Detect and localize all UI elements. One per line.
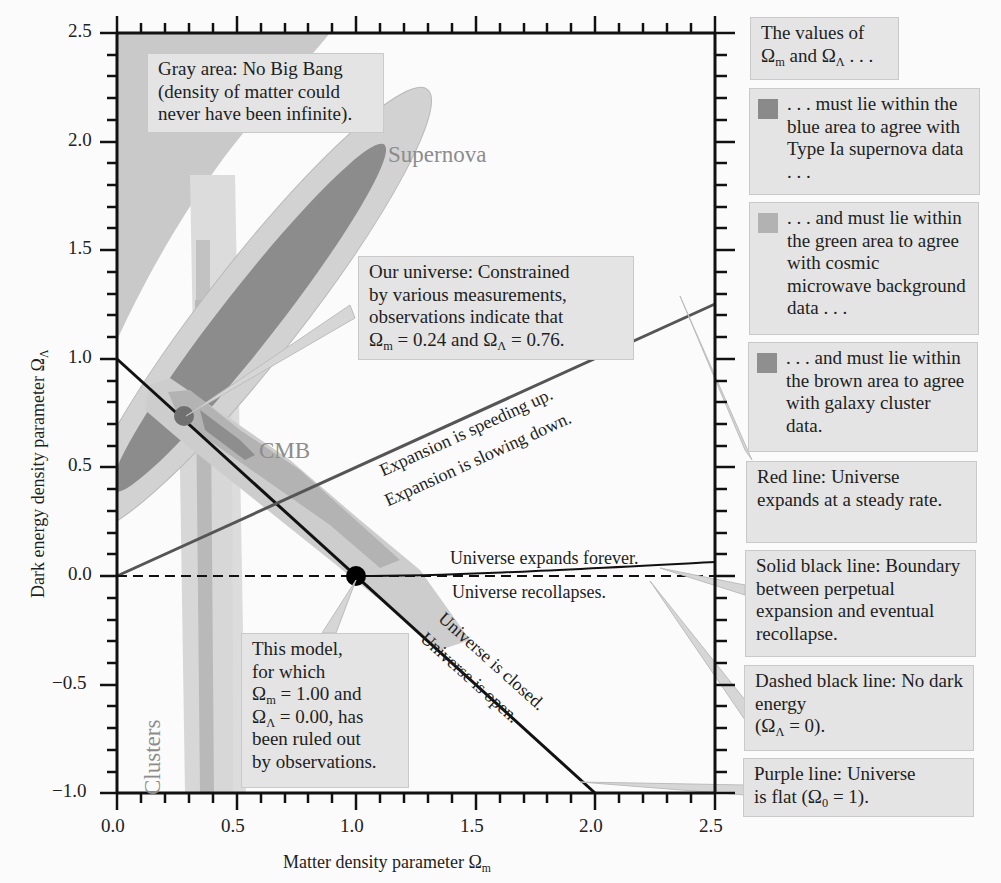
legend-supernova: . . . must lie within the blue area to a…: [749, 88, 980, 195]
dashed-black-callout: [650, 581, 745, 720]
y-tick-neg-1.0: −1.0: [52, 780, 86, 802]
x-axis-label: Matter density parameter Ωm: [283, 852, 491, 873]
y-tick-neg-0.5: −0.5: [52, 672, 86, 694]
our-universe-annotation: Our universe: Constrained by various mea…: [358, 256, 634, 360]
legend-clusters: . . . and must lie within the brown area…: [748, 342, 978, 452]
y-tick-2.0: 2.0: [68, 129, 92, 151]
y-tick-0.5: 0.5: [68, 454, 92, 476]
y-tick-1.0: 1.0: [68, 346, 92, 368]
solid-black-callout: [660, 568, 745, 595]
y-tick-0.0: 0.0: [68, 563, 92, 585]
x-tick-0.0: 0.0: [101, 815, 125, 837]
x-tick-1.0: 1.0: [340, 815, 364, 837]
y-axis-label: Dark energy density parameter ΩΛ: [28, 350, 49, 598]
gray-area-annotation: Gray area: No Big Bang (density of matte…: [147, 53, 384, 133]
clusters-swatch-icon: [757, 353, 777, 373]
cmb-swatch-icon: [758, 213, 778, 233]
our-universe-point: [174, 406, 194, 426]
x-tick-1.5: 1.5: [460, 815, 484, 837]
cmb-label: CMB: [259, 438, 310, 464]
expands-forever-label: Universe expands forever.: [450, 548, 638, 569]
legend-solid-black-line: Solid black line: Boundary between perpe…: [745, 550, 976, 657]
legend-dashed-black-line: Dashed black line: No dark energy (ΩΛ = …: [744, 665, 974, 751]
this-model-annotation: This model, for which Ωm = 1.00 and ΩΛ =…: [241, 633, 409, 788]
clusters-label: Clusters: [140, 720, 166, 795]
legend-red-line: Red line: Universe expands at a steady r…: [746, 461, 977, 543]
legend-purple-line: Purple line: Universe is flat (Ω0 = 1).: [743, 758, 974, 817]
recollapses-label: Universe recollapses.: [452, 582, 606, 603]
x-tick-0.5: 0.5: [221, 815, 245, 837]
legend-intro: The values of Ωm and ΩΛ . . .: [750, 17, 899, 80]
y-tick-2.5: 2.5: [68, 20, 92, 42]
ruled-out-model-point: [346, 566, 366, 586]
x-tick-2.5: 2.5: [699, 815, 723, 837]
legend-cmb: . . . and must lie within the green area…: [749, 202, 979, 335]
x-tick-2.0: 2.0: [579, 815, 603, 837]
y-tick-1.5: 1.5: [68, 237, 92, 259]
supernova-label: Supernova: [388, 142, 486, 168]
supernova-swatch-icon: [758, 99, 778, 119]
this-model-callout: [322, 580, 356, 633]
